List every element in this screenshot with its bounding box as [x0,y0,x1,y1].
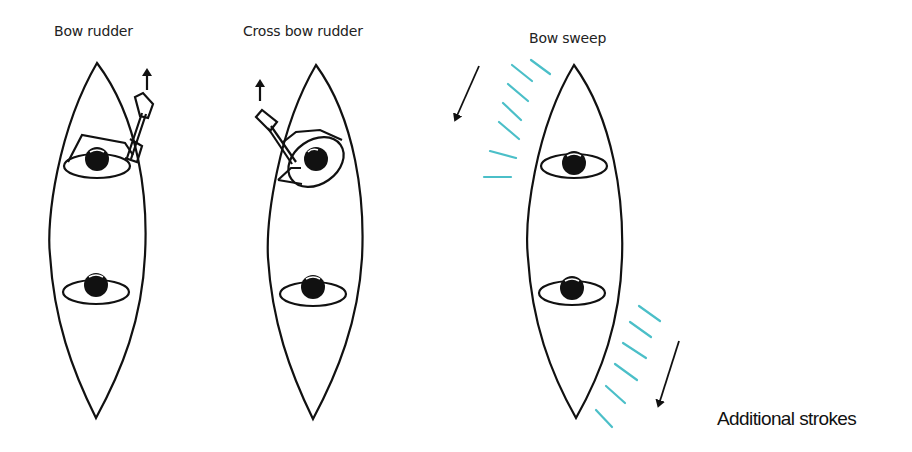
kayak-hull [268,65,363,419]
paddle-blade [256,110,277,131]
sweep-trail-strokes [484,60,660,427]
rear-paddler-head [84,273,108,297]
front-paddler-head [304,147,328,171]
kayak-hull [527,65,622,418]
bow-rudder-kayak [49,63,153,418]
cross-bow-rudder-kayak [256,65,363,419]
stern-sweep-arrow [659,341,679,404]
bow-sweep-arrow [456,66,479,118]
paddler-arms [282,130,342,143]
kayak-hull [49,63,145,418]
kayak-strokes-diagram [0,0,912,452]
paddle-blade [135,93,153,118]
bow-sweep-kayak [456,65,679,418]
rear-paddler-head [301,275,325,299]
